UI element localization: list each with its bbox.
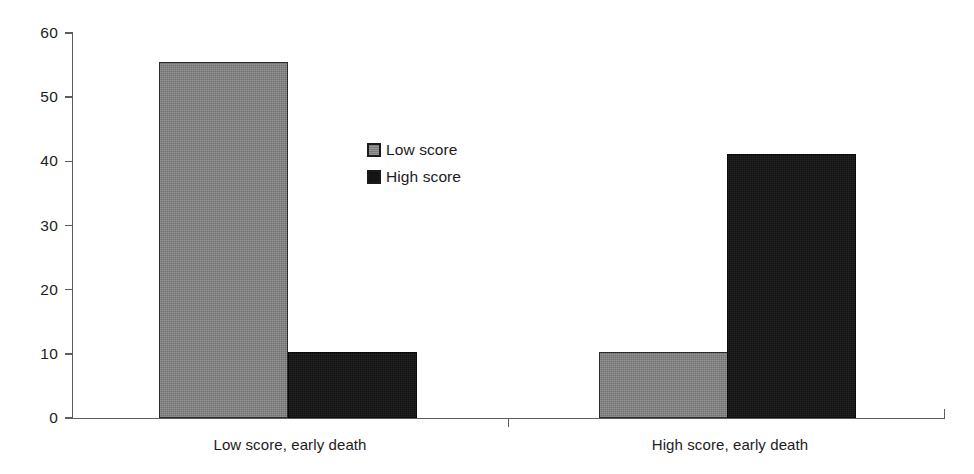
chart-page: 0102030405060 Low score, early death Hig… — [0, 0, 974, 474]
x-axis-category-divider — [508, 418, 509, 427]
plot-area: 0102030405060 Low score, early death Hig… — [0, 0, 974, 474]
x-axis-label-group2: High score, early death — [605, 437, 855, 453]
legend-item-high-score[interactable]: High score — [367, 163, 461, 190]
legend-swatch-icon-low-score — [367, 143, 381, 157]
legend-label-high-score: High score — [386, 169, 461, 185]
legend-label-low-score: Low score — [386, 142, 458, 158]
bar-high-score-group1[interactable] — [288, 352, 417, 418]
chart-legend: Low score High score — [367, 136, 461, 190]
legend-swatch-icon-high-score — [367, 170, 381, 184]
legend-item-low-score[interactable]: Low score — [367, 136, 461, 163]
bar-high-score-group2[interactable] — [727, 154, 856, 418]
bar-low-score-group1[interactable] — [159, 62, 288, 418]
bars-layer — [0, 0, 974, 418]
bar-low-score-group2[interactable] — [599, 352, 728, 418]
x-axis-label-group1: Low score, early death — [170, 437, 410, 453]
